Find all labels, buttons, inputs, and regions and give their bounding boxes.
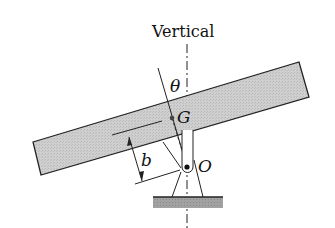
theta-label: θ: [170, 76, 180, 96]
pivot-point-o: [184, 164, 189, 169]
b-label: b: [141, 150, 152, 170]
center-of-mass-g: [170, 116, 175, 121]
g-label: G: [177, 107, 191, 127]
ground: [153, 197, 223, 208]
b-arrowhead-bottom: [139, 171, 144, 181]
support-leg-left: [172, 172, 181, 197]
frame-link-left: [163, 142, 181, 168]
pendulum-bar-diagram: Vertical θ G b O: [0, 0, 335, 228]
o-label: O: [198, 156, 212, 176]
vertical-label: Vertical: [151, 22, 214, 41]
